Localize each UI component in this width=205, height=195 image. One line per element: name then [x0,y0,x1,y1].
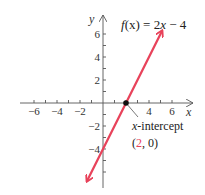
y-tick-label: 6 [95,28,101,40]
x-tick-label: 6 [169,105,175,117]
x-tick-label: −2 [74,105,86,117]
graph: −6 −4 −2 4 6 x 6 4 2 −2 −4 y f(x) = 2x −… [0,0,205,195]
x-tick-label: −6 [28,105,40,117]
y-axis-label: y [88,12,95,26]
function-label: f(x) = 2x − 4 [121,17,187,32]
function-line [126,31,162,103]
function-line-lower [87,103,126,181]
x-tick-label: 4 [146,105,152,117]
x-axis-label: x [185,105,192,119]
x-intercept-point [123,100,129,106]
y-tick-label: 2 [95,74,101,86]
y-tick-label: −4 [88,143,100,155]
x-intercept-coords: (2, 0) [132,136,158,150]
x-tick-label: −4 [51,105,63,117]
y-tick-label: 4 [95,51,101,63]
x-intercept-label: x-intercept [131,119,184,133]
y-tick-label: −2 [88,120,100,132]
